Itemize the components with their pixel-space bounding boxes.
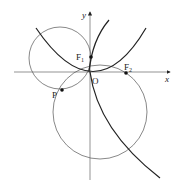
y-axis-label: y [81,10,86,20]
origin-label: O [92,76,99,86]
point-F1 [89,55,93,59]
circle-lower-right [53,65,147,159]
diagram: y x O F1 F2 P [0,0,184,196]
point-P [60,88,64,92]
P-label: P [52,90,57,100]
F1-label: F1 [76,52,84,63]
parabola-wide [36,28,146,72]
x-axis-label: x [164,74,169,84]
curve-descending [90,72,160,178]
curve-steep-up [89,20,109,72]
F2-label: F2 [124,62,132,73]
